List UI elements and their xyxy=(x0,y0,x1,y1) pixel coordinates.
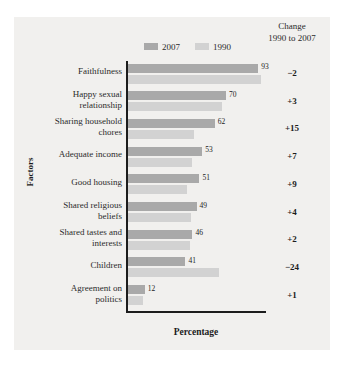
x-axis-title: Percentage xyxy=(126,327,266,337)
bar-value-label: 49 xyxy=(200,201,208,210)
bar-2007 xyxy=(128,147,202,156)
bar-1990 xyxy=(128,185,187,194)
bar-2007 xyxy=(128,202,197,211)
bar-1990 xyxy=(128,241,190,250)
bar-2007 xyxy=(128,230,192,239)
bar-2007 xyxy=(128,64,258,73)
bar-2007 xyxy=(128,174,199,183)
change-column-header: Change 1990 to 2007 xyxy=(254,20,330,44)
chart-figure: 2007 1990 Change 1990 to 2007 Faithfulne… xyxy=(14,17,330,350)
change-value: +1 xyxy=(254,290,330,300)
bar-2007 xyxy=(128,285,145,294)
bar-1990 xyxy=(128,102,222,111)
legend-label-1990: 1990 xyxy=(213,42,231,52)
bar-1990 xyxy=(128,296,143,305)
bar-value-label: 41 xyxy=(188,256,196,265)
x-axis-line xyxy=(126,311,266,313)
bar-value-label: 51 xyxy=(202,173,210,182)
legend-swatch-1990 xyxy=(195,43,209,50)
bar-1990 xyxy=(128,158,192,167)
bar-1990 xyxy=(128,213,191,222)
bar-value-label: 46 xyxy=(195,228,203,237)
legend-item-1990: 1990 xyxy=(195,41,231,52)
bar-value-label: 70 xyxy=(229,90,237,99)
bar-2007 xyxy=(128,91,226,100)
legend-item-2007: 2007 xyxy=(144,41,180,52)
bar-1990 xyxy=(128,130,194,139)
change-value: +9 xyxy=(254,179,330,189)
change-value: +15 xyxy=(254,123,330,133)
change-value: −2 xyxy=(254,68,330,78)
legend-label-2007: 2007 xyxy=(162,42,180,52)
change-value: +7 xyxy=(254,151,330,161)
change-value: −24 xyxy=(254,262,330,272)
legend-swatch-2007 xyxy=(144,43,158,50)
change-value: +3 xyxy=(254,96,330,106)
bar-2007 xyxy=(128,257,185,266)
change-value: +4 xyxy=(254,207,330,217)
bar-value-label: 62 xyxy=(218,117,226,126)
change-header-line1: Change xyxy=(254,20,330,32)
bar-value-label: 53 xyxy=(205,145,213,154)
bar-value-label: 12 xyxy=(148,284,156,293)
bar-1990 xyxy=(128,75,261,84)
bar-2007 xyxy=(128,119,215,128)
change-value-column: −2+3+15+7+9+4+2−24+1 xyxy=(254,61,330,311)
change-value: +2 xyxy=(254,234,330,244)
bar-1990 xyxy=(128,268,219,277)
change-header-line2: 1990 to 2007 xyxy=(254,32,330,44)
y-axis-title: Factors xyxy=(25,132,35,212)
